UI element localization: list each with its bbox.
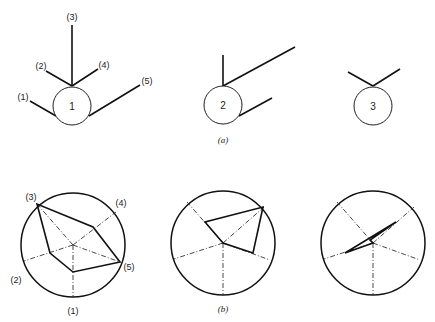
- ray-label-4: (4): [99, 60, 110, 70]
- star-plot-1: (1) (2) (3) (4) (5): [11, 192, 135, 316]
- ray-4: [223, 47, 295, 86]
- caption-b: (b): [218, 304, 229, 314]
- caption-a: (a): [218, 135, 229, 145]
- ray-label-1: (1): [18, 92, 29, 102]
- glyph-3: 3: [348, 69, 400, 125]
- axis-label-4: (4): [116, 198, 127, 208]
- glyph-1: 1 (3) (2) (4) (1) (5): [18, 12, 153, 125]
- star-plot-2-polygon: [205, 207, 263, 253]
- ray-1: [30, 101, 56, 116]
- glyph-2: 2: [204, 47, 295, 124]
- glyph-star-diagram: 1 (3) (2) (4) (1) (5) 2 3 (a) (1) (2) (3…: [0, 0, 435, 322]
- ray-label-2: (2): [36, 61, 47, 71]
- ray-2: [46, 71, 72, 86]
- star-plot-1-polygon: [37, 204, 120, 272]
- star-plot-2: (b): [171, 191, 275, 314]
- axis-label-3: (3): [26, 192, 37, 202]
- glyph-3-number: 3: [370, 101, 376, 112]
- axis-label-5: (5): [124, 262, 135, 272]
- axis-label-2: (2): [11, 275, 22, 285]
- ray-label-3: (3): [67, 12, 78, 22]
- star-plot-3-polygon: [345, 222, 396, 253]
- axis-4: [373, 207, 414, 243]
- ray-label-5: (5): [142, 76, 153, 86]
- star-plot-3: [321, 191, 425, 295]
- glyph-2-number: 2: [220, 100, 226, 111]
- axis-5: [373, 243, 420, 260]
- glyph-1-number: 1: [69, 101, 75, 112]
- ray-5: [89, 85, 140, 116]
- axis-3: [337, 202, 373, 243]
- ray-2: [348, 72, 373, 86]
- ray-5: [239, 98, 272, 116]
- axis-label-1: (1): [68, 306, 79, 316]
- ray-4: [72, 69, 98, 86]
- ray-4: [373, 69, 400, 86]
- axis-2: [174, 243, 223, 259]
